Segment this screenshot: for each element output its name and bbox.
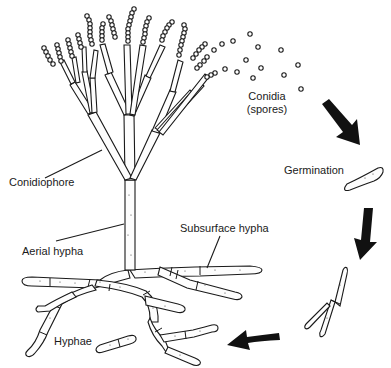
label-spores: (spores) (247, 103, 287, 115)
arrow-to-young-hypha (354, 208, 377, 260)
label-subsurface-hypha: Subsurface hypha (180, 222, 270, 234)
fungal-life-cycle-diagram: Conidia (spores) Germination Conidiophor… (0, 0, 391, 368)
aerial-hypha-stem (125, 180, 135, 270)
young-hypha (305, 267, 348, 336)
free-conidia (220, 32, 303, 91)
label-germination: Germination (284, 164, 344, 176)
arrow-to-hyphae (227, 330, 280, 350)
label-hyphae: Hyphae (54, 335, 92, 347)
label-aerial-hypha: Aerial hypha (22, 245, 84, 257)
germinating-spore (345, 168, 384, 191)
arrow-to-germination (322, 99, 360, 145)
label-conidiophore: Conidiophore (9, 176, 74, 188)
hyphae-network (22, 266, 262, 366)
conidiophore (42, 7, 217, 180)
label-conidia: Conidia (248, 90, 286, 102)
